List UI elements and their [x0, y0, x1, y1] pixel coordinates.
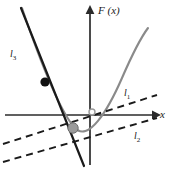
x-axis-label: x	[160, 109, 165, 120]
line-label-l2-subscript: 2	[137, 136, 141, 144]
y-axis-label: F (x)	[98, 5, 120, 16]
line-label-l1-subscript: 1	[127, 93, 131, 101]
black-point-marker	[40, 77, 49, 86]
line-label-l1: l1	[124, 88, 130, 101]
math-figure: F (x) x l1 l2 l3	[0, 0, 170, 171]
open-point-marker	[89, 109, 95, 115]
gray-vertex-marker	[68, 123, 78, 133]
line-label-l3-subscript: 3	[13, 54, 17, 62]
parabola-curve	[22, 8, 148, 132]
line-label-l2: l2	[134, 131, 140, 144]
y-axis	[86, 5, 95, 165]
figure-canvas	[0, 0, 170, 171]
line-label-l3: l3	[10, 49, 16, 62]
